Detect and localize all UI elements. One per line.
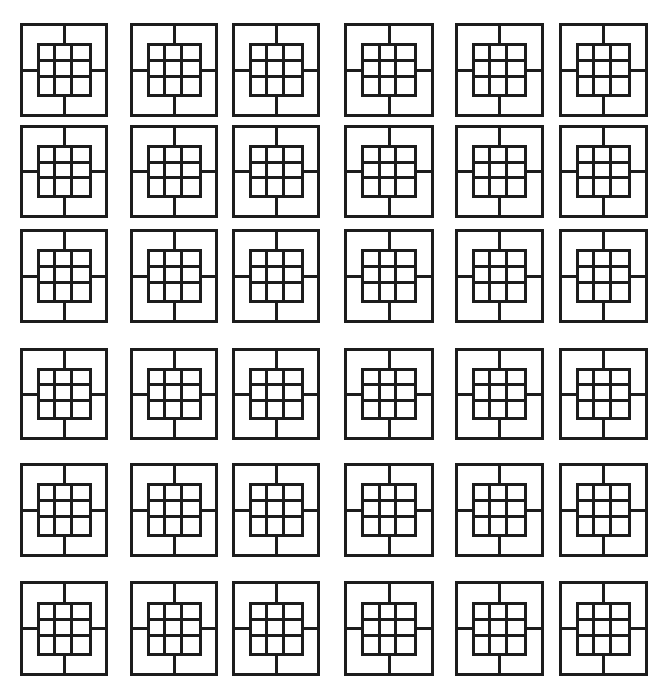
- grid-cell: [381, 148, 398, 164]
- grid-cell: [40, 621, 56, 637]
- grid-cell: [397, 284, 414, 300]
- spoke-right: [631, 393, 645, 396]
- grid-cell: [166, 179, 182, 195]
- grid-cell: [40, 486, 56, 502]
- grid-cell: [268, 518, 284, 534]
- tile-glyph: [559, 348, 648, 440]
- grid-cell: [268, 46, 284, 62]
- grid-cell: [364, 605, 381, 621]
- spoke-bottom: [388, 198, 391, 215]
- grid-cell: [595, 179, 611, 195]
- grid-cell: [364, 486, 381, 502]
- inner-3x3-grid: [147, 483, 202, 537]
- grid-cell: [268, 179, 284, 195]
- spoke-top: [63, 584, 66, 602]
- tile-glyph: [232, 348, 320, 440]
- grid-cell: [150, 518, 166, 534]
- grid-cell: [285, 62, 301, 78]
- grid-cell: [595, 62, 611, 78]
- grid-cell: [268, 605, 284, 621]
- inner-3x3-grid: [472, 43, 527, 97]
- grid-cell: [252, 518, 268, 534]
- grid-cell: [381, 386, 398, 401]
- spoke-right: [92, 627, 105, 630]
- spoke-top: [63, 232, 66, 249]
- tile-glyph: [455, 23, 544, 117]
- spoke-right: [202, 509, 215, 512]
- grid-cell: [268, 284, 284, 300]
- grid-cell: [73, 402, 89, 417]
- tile-glyph: [559, 125, 648, 218]
- grid-cell: [595, 371, 611, 386]
- grid-cell: [475, 62, 491, 78]
- grid-cell: [285, 78, 301, 94]
- grid-cell: [475, 621, 491, 637]
- spoke-top: [173, 128, 176, 145]
- grid-cell: [73, 46, 89, 62]
- grid-cell: [381, 502, 398, 518]
- grid-cell: [150, 637, 166, 653]
- grid-cell: [150, 62, 166, 78]
- grid-cell: [268, 148, 284, 164]
- grid-cell: [579, 386, 595, 401]
- grid-cell: [381, 402, 398, 417]
- inner-3x3-grid: [37, 368, 92, 420]
- grid-cell: [491, 518, 507, 534]
- spoke-left: [235, 69, 249, 72]
- grid-cell: [183, 46, 199, 62]
- spoke-bottom: [498, 198, 501, 215]
- grid-cell: [150, 371, 166, 386]
- grid-cell: [268, 502, 284, 518]
- spoke-top: [602, 466, 605, 483]
- grid-cell: [73, 284, 89, 300]
- grid-cell: [56, 621, 72, 637]
- grid-cell: [183, 371, 199, 386]
- grid-cell: [150, 284, 166, 300]
- grid-cell: [381, 252, 398, 268]
- inner-3x3-grid: [576, 249, 631, 303]
- grid-cell: [285, 179, 301, 195]
- inner-3x3-grid: [37, 602, 92, 656]
- grid-cell: [508, 164, 524, 180]
- spoke-bottom: [63, 420, 66, 437]
- spoke-bottom: [498, 656, 501, 673]
- grid-cell: [612, 179, 628, 195]
- grid-cell: [166, 371, 182, 386]
- spoke-left: [458, 393, 472, 396]
- inner-3x3-grid: [249, 249, 304, 303]
- grid-cell: [381, 284, 398, 300]
- grid-cell: [285, 252, 301, 268]
- spoke-bottom: [602, 420, 605, 437]
- spoke-top: [498, 26, 501, 43]
- grid-cell: [73, 486, 89, 502]
- spoke-right: [631, 69, 645, 72]
- spoke-bottom: [388, 537, 391, 554]
- grid-cell: [579, 284, 595, 300]
- spoke-bottom: [388, 97, 391, 114]
- grid-cell: [508, 518, 524, 534]
- spoke-right: [304, 393, 317, 396]
- grid-cell: [491, 502, 507, 518]
- grid-cell: [364, 252, 381, 268]
- grid-cell: [183, 605, 199, 621]
- grid-cell: [285, 502, 301, 518]
- grid-cell: [56, 78, 72, 94]
- grid-cell: [150, 268, 166, 284]
- grid-cell: [364, 621, 381, 637]
- grid-cell: [579, 148, 595, 164]
- grid-cell: [183, 502, 199, 518]
- spoke-top: [498, 232, 501, 249]
- tile-glyph: [20, 463, 108, 557]
- grid-cell: [166, 605, 182, 621]
- inner-3x3-grid: [147, 145, 202, 198]
- grid-cell: [285, 637, 301, 653]
- grid-cell: [166, 148, 182, 164]
- grid-cell: [285, 164, 301, 180]
- grid-cell: [475, 148, 491, 164]
- grid-cell: [150, 78, 166, 94]
- spoke-top: [388, 466, 391, 483]
- spoke-left: [458, 170, 472, 173]
- grid-cell: [579, 518, 595, 534]
- spoke-right: [417, 393, 431, 396]
- grid-cell: [491, 46, 507, 62]
